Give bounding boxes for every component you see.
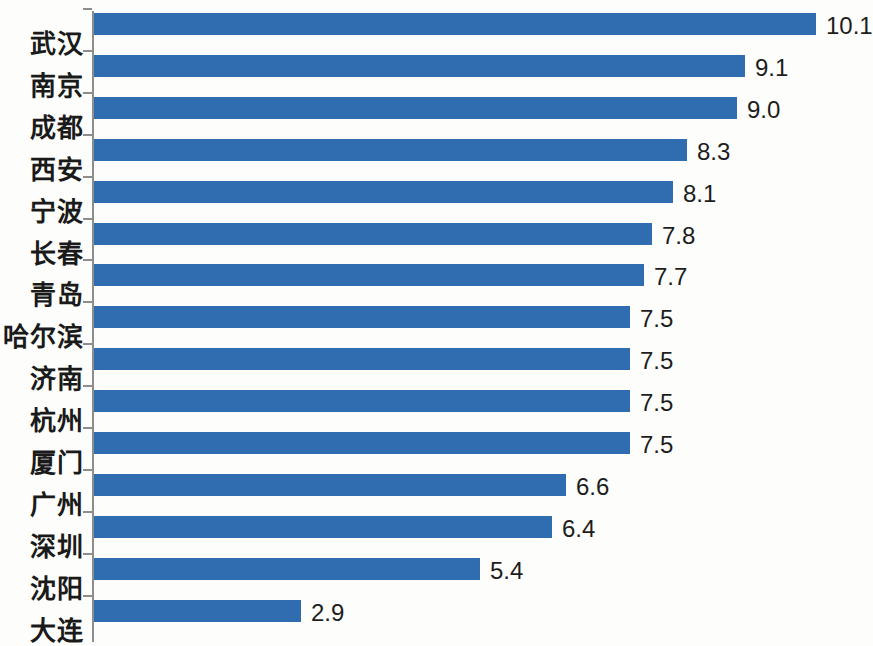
axis-tick — [83, 511, 92, 513]
bar-value-label: 7.7 — [654, 265, 687, 289]
category-label: 成都 — [0, 113, 84, 143]
axis-tick — [83, 218, 92, 220]
bar — [94, 181, 673, 203]
axis-tick — [83, 176, 92, 178]
bar-value-label: 9.1 — [755, 56, 788, 80]
bar — [94, 13, 816, 35]
axis-tick — [83, 301, 92, 303]
bar-value-label: 7.5 — [640, 349, 673, 373]
bar-value-label: 7.5 — [640, 307, 673, 331]
bar — [94, 97, 737, 119]
category-label: 哈尔滨 — [0, 322, 84, 352]
bar — [94, 139, 687, 161]
axis-tick — [83, 50, 92, 52]
bar — [94, 516, 552, 538]
category-label: 厦门 — [0, 448, 84, 478]
category-label: 济南 — [0, 364, 84, 394]
axis-tick — [83, 134, 92, 136]
category-label: 南京 — [0, 71, 84, 101]
bar-value-label: 2.9 — [311, 601, 344, 625]
bar — [94, 348, 630, 370]
bar — [94, 223, 652, 245]
bar-value-label: 10.1 — [826, 14, 873, 38]
axis-tick — [83, 343, 92, 345]
category-label: 青岛 — [0, 280, 84, 310]
bar-value-label: 6.4 — [562, 517, 595, 541]
axis-tick — [83, 92, 92, 94]
category-label: 杭州 — [0, 406, 84, 436]
category-label: 大连 — [0, 616, 84, 646]
bar — [94, 432, 630, 454]
category-label: 西安 — [0, 155, 84, 185]
axis-tick — [83, 427, 92, 429]
axis-tick — [83, 385, 92, 387]
axis-tick — [83, 8, 92, 10]
bar-value-label: 8.1 — [683, 182, 716, 206]
bar — [94, 264, 644, 286]
axis-tick — [83, 469, 92, 471]
bar-value-label: 5.4 — [490, 559, 523, 583]
bar-value-label: 8.3 — [697, 140, 730, 164]
bar-value-label: 7.5 — [640, 433, 673, 457]
axis-tick — [83, 595, 92, 597]
bar — [94, 558, 480, 580]
category-label: 宁波 — [0, 197, 84, 227]
category-label: 沈阳 — [0, 574, 84, 604]
category-label: 广州 — [0, 490, 84, 520]
category-label: 武汉 — [0, 29, 84, 59]
bar — [94, 390, 630, 412]
category-label: 长春 — [0, 239, 84, 269]
category-label: 深圳 — [0, 532, 84, 562]
bar-value-label: 9.0 — [747, 98, 780, 122]
bar — [94, 600, 301, 622]
bar-value-label: 7.8 — [662, 224, 695, 248]
bar — [94, 55, 745, 77]
bar-value-label: 6.6 — [576, 475, 609, 499]
axis-tick — [83, 553, 92, 555]
bar — [94, 474, 566, 496]
bar — [94, 306, 630, 328]
bar-value-label: 7.5 — [640, 391, 673, 415]
axis-tick — [83, 259, 92, 261]
